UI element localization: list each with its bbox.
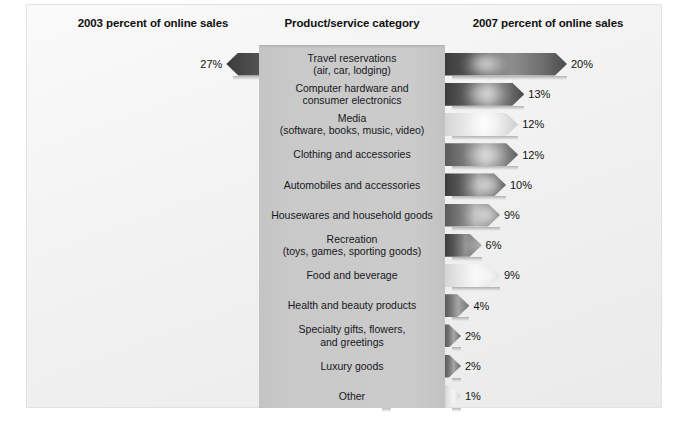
right-value-label: 4% xyxy=(473,300,489,312)
right-value-label: 2% xyxy=(465,360,481,372)
category-label: Luxury goods xyxy=(259,360,445,373)
right-value-label: 6% xyxy=(486,239,502,251)
category-label-line1: Housewares and household goods xyxy=(261,209,443,222)
category-label: Health and beauty products xyxy=(259,299,445,312)
bar-highlight xyxy=(463,83,509,106)
category-label-line2: consumer electronics xyxy=(261,94,443,107)
right-bar-group: 12% xyxy=(445,140,544,170)
category-label: Travel reservations(air, car, lodging) xyxy=(259,52,445,77)
header-left-year: 2003 percent of online sales xyxy=(35,17,271,29)
category-label: Media(software, books, music, video) xyxy=(259,112,445,137)
right-value-label: 1% xyxy=(465,390,481,402)
category-label-line1: Automobiles and accessories xyxy=(261,179,443,192)
category-label-line1: Recreation xyxy=(261,233,443,246)
right-value-label: 9% xyxy=(504,209,520,221)
category-label-line2: (toys, games, sporting goods) xyxy=(261,245,443,258)
table-row: 27%20%Travel reservations(air, car, lodg… xyxy=(27,49,661,79)
right-value-label: 2% xyxy=(465,330,481,342)
table-row: 14%12%Media(software, books, music, vide… xyxy=(27,109,661,139)
table-row: 16%13%Computer hardware andconsumer elec… xyxy=(27,79,661,109)
right-bar-group: 2% xyxy=(445,321,481,351)
bar-2007 xyxy=(445,355,461,378)
bar-2007 xyxy=(445,173,506,196)
category-label-line2: (software, books, music, video) xyxy=(261,124,443,137)
right-bar-group: 20% xyxy=(445,49,593,79)
bar-2007 xyxy=(445,113,518,136)
category-label-line1: Luxury goods xyxy=(261,360,443,373)
category-label: Computer hardware andconsumer electronic… xyxy=(259,82,445,107)
category-label-line1: Health and beauty products xyxy=(261,299,443,312)
right-value-label: 13% xyxy=(528,88,550,100)
category-label-line1: Other xyxy=(261,390,443,403)
bar-2007 xyxy=(445,324,461,347)
category-label-line1: Food and beverage xyxy=(261,269,443,282)
category-label-line2: (air, car, lodging) xyxy=(261,64,443,77)
right-value-label: 20% xyxy=(571,58,593,70)
column-headers: 2003 percent of online sales Product/ser… xyxy=(27,5,661,45)
bar-2007 xyxy=(445,234,482,257)
right-bar-group: 13% xyxy=(445,79,550,109)
bar-2007 xyxy=(445,83,524,106)
bar-highlight xyxy=(463,204,500,227)
left-value-label: 27% xyxy=(200,58,222,70)
bar-2007 xyxy=(445,204,500,227)
bar-2007 xyxy=(445,294,469,317)
table-row: 2%2%Specialty gifts, flowers,and greetin… xyxy=(27,321,661,351)
header-right-year: 2007 percent of online sales xyxy=(437,17,659,29)
category-label: Automobiles and accessories xyxy=(259,179,445,192)
right-bar-group: 1% xyxy=(445,381,481,411)
bar-2007 xyxy=(445,53,567,76)
right-value-label: 12% xyxy=(522,118,544,130)
category-label-line1: Computer hardware and xyxy=(261,82,443,95)
bar-2007 xyxy=(445,264,500,287)
bar-highlight xyxy=(463,264,500,287)
category-label: Other xyxy=(259,390,445,403)
category-label-line1: Clothing and accessories xyxy=(261,148,443,161)
bar-highlight xyxy=(463,173,506,196)
category-label-line2: and greetings xyxy=(261,336,443,349)
category-label: Housewares and household goods xyxy=(259,209,445,222)
bar-2007 xyxy=(445,143,518,166)
bar-highlight xyxy=(463,113,509,136)
right-bar-group: 4% xyxy=(445,291,489,321)
bar-highlight xyxy=(463,53,509,76)
header-category: Product/service category xyxy=(259,17,445,29)
bar-highlight xyxy=(463,294,469,317)
right-value-label: 9% xyxy=(504,269,520,281)
bar-highlight xyxy=(463,143,509,166)
right-bar-group: 9% xyxy=(445,260,520,290)
right-bar-group: 2% xyxy=(445,351,481,381)
category-label: Food and beverage xyxy=(259,269,445,282)
right-bar-group: 6% xyxy=(445,230,502,260)
right-bar-group: 10% xyxy=(445,170,532,200)
right-bar-group: 9% xyxy=(445,200,520,230)
right-bar-group: 12% xyxy=(445,109,544,139)
bar-2007 xyxy=(445,385,461,408)
right-value-label: 12% xyxy=(522,149,544,161)
right-value-label: 10% xyxy=(510,179,532,191)
category-label: Recreation(toys, games, sporting goods) xyxy=(259,233,445,258)
bar-highlight xyxy=(463,234,482,257)
chart-frame: 2003 percent of online sales Product/ser… xyxy=(26,4,662,408)
category-label-line1: Travel reservations xyxy=(261,52,443,65)
category-label-line1: Specialty gifts, flowers, xyxy=(261,323,443,336)
category-label-line1: Media xyxy=(261,112,443,125)
category-label: Clothing and accessories xyxy=(259,148,445,161)
table-row: 6%6%Recreation(toys, games, sporting goo… xyxy=(27,230,661,260)
category-label: Specialty gifts, flowers,and greetings xyxy=(259,323,445,348)
